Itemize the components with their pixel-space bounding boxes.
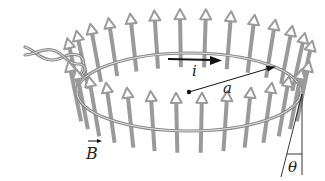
radius-line xyxy=(189,66,276,92)
current-label: i xyxy=(192,62,197,80)
radius-label: a xyxy=(223,79,232,97)
current-loop-diagram: i a B θ xyxy=(0,0,325,181)
angle-label: θ xyxy=(288,158,297,176)
field-label: B xyxy=(85,144,98,163)
field-label-group: B xyxy=(85,139,102,163)
field-arrows-front xyxy=(65,61,312,152)
